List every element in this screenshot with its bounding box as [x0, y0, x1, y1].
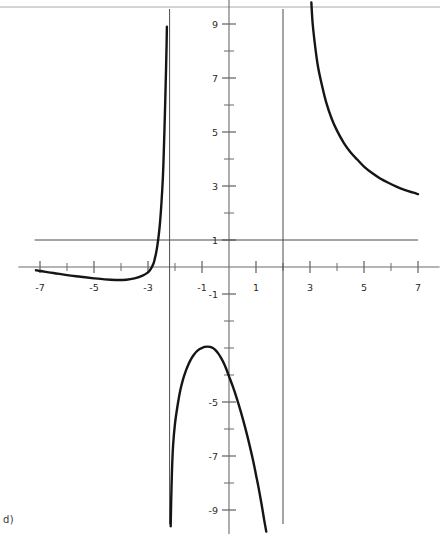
y-tick-label: 9 — [212, 19, 218, 30]
x-tick-label: -1 — [197, 282, 206, 293]
y-tick-label: -7 — [209, 451, 218, 462]
y-tick-label: -9 — [209, 505, 218, 516]
y-tick-label: 3 — [212, 181, 218, 192]
x-tick-label: 7 — [415, 282, 421, 293]
x-tick-label: -5 — [89, 282, 98, 293]
graph-figure: -7-5-3-1135797531-1-5-7-9 — [0, 0, 440, 534]
curve-branch-right — [311, 2, 418, 194]
coordinate-plane: -7-5-3-1135797531-1-5-7-9 — [0, 0, 440, 534]
x-tick-label: -3 — [143, 282, 152, 293]
x-tick-label: 5 — [361, 282, 367, 293]
curve-branch-left — [36, 27, 167, 280]
curve-branch-middle — [171, 347, 267, 532]
y-tick-label: -5 — [209, 397, 218, 408]
figure-caption: d) — [3, 514, 14, 525]
x-tick-label: 1 — [253, 282, 259, 293]
y-tick-label: -1 — [209, 289, 218, 300]
y-tick-label: 1 — [212, 235, 218, 246]
x-tick-label: 3 — [307, 282, 313, 293]
axes-group — [18, 0, 439, 534]
y-tick-label: 5 — [212, 127, 218, 138]
y-tick-label: 7 — [212, 73, 218, 84]
x-tick-label: -7 — [35, 282, 44, 293]
